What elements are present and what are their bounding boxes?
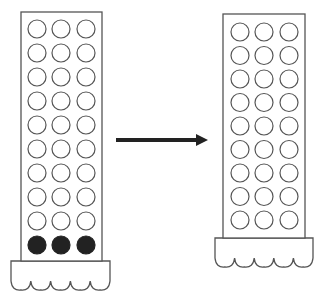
empty-slot <box>77 188 95 206</box>
empty-slot <box>52 92 70 110</box>
empty-slot <box>52 140 70 158</box>
empty-slot <box>280 164 298 182</box>
rack-base <box>215 238 313 267</box>
empty-slot <box>77 44 95 62</box>
empty-slot <box>280 141 298 159</box>
empty-slot <box>255 211 273 229</box>
empty-slot <box>280 23 298 41</box>
filled-slot <box>28 236 46 254</box>
empty-slot <box>255 70 273 88</box>
empty-slot <box>255 164 273 182</box>
empty-slot <box>280 70 298 88</box>
empty-slot <box>255 141 273 159</box>
empty-slot <box>52 116 70 134</box>
arrow-head-icon <box>196 134 208 146</box>
empty-slot <box>231 94 249 112</box>
empty-slot <box>52 44 70 62</box>
filled-slot <box>52 236 70 254</box>
empty-slot <box>28 140 46 158</box>
empty-slot <box>255 94 273 112</box>
filled-slot <box>77 236 95 254</box>
diagram-svg <box>0 0 324 301</box>
empty-slot <box>52 164 70 182</box>
empty-slot <box>255 47 273 65</box>
empty-slot <box>280 211 298 229</box>
empty-slot <box>52 68 70 86</box>
empty-slot <box>255 188 273 206</box>
empty-slot <box>77 164 95 182</box>
empty-slot <box>77 68 95 86</box>
empty-slot <box>231 211 249 229</box>
empty-slot <box>28 116 46 134</box>
empty-slot <box>255 117 273 135</box>
empty-slot <box>77 116 95 134</box>
empty-slot <box>28 20 46 38</box>
empty-slot <box>77 140 95 158</box>
empty-slot <box>77 212 95 230</box>
empty-slot <box>280 94 298 112</box>
empty-slot <box>280 117 298 135</box>
empty-slot <box>28 164 46 182</box>
empty-slot <box>28 92 46 110</box>
empty-slot <box>231 117 249 135</box>
empty-slot <box>231 23 249 41</box>
empty-slot <box>28 68 46 86</box>
left-rack <box>11 12 110 290</box>
empty-slot <box>52 20 70 38</box>
diagram-canvas <box>0 0 324 301</box>
empty-slot <box>231 47 249 65</box>
empty-slot <box>28 212 46 230</box>
empty-slot <box>231 141 249 159</box>
empty-slot <box>77 20 95 38</box>
empty-slot <box>231 164 249 182</box>
empty-slot <box>280 188 298 206</box>
empty-slot <box>231 188 249 206</box>
empty-slot <box>77 92 95 110</box>
rack-base <box>11 261 110 290</box>
empty-slot <box>255 23 273 41</box>
empty-slot <box>28 44 46 62</box>
empty-slot <box>52 188 70 206</box>
empty-slot <box>280 47 298 65</box>
empty-slot <box>28 188 46 206</box>
empty-slot <box>231 70 249 88</box>
right-rack <box>215 14 313 267</box>
empty-slot <box>52 212 70 230</box>
transition-arrow <box>116 134 208 146</box>
